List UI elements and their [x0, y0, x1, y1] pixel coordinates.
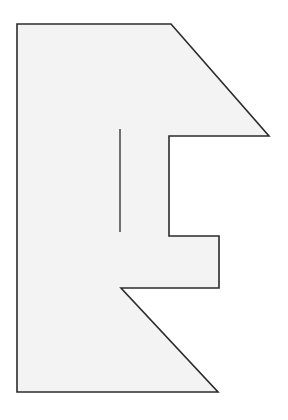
figure-canvas — [0, 0, 288, 420]
